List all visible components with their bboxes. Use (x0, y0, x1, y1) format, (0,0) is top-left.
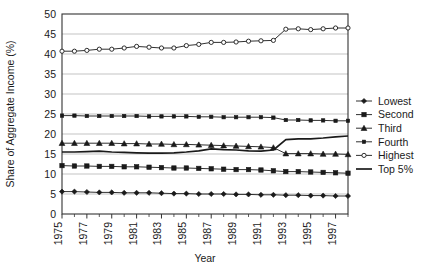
data-point (172, 115, 175, 118)
legend-label: Highest (378, 149, 414, 161)
y-tick-label: 25 (44, 108, 56, 120)
legend-label: Lowest (378, 95, 411, 107)
x-tick-label: 1997 (326, 222, 338, 246)
income-share-chart-figure: 0510152025303540455019751977197919811983… (0, 0, 447, 265)
legend-item-third[interactable]: Third (356, 122, 402, 134)
data-point (259, 39, 263, 43)
data-point (122, 114, 125, 117)
series-line (62, 143, 348, 154)
data-point (72, 189, 77, 194)
x-tick-label: 1983 (151, 222, 163, 246)
data-point (172, 166, 176, 170)
data-point (246, 167, 250, 171)
legend-item-second[interactable]: Second (356, 108, 414, 120)
legend-marker-square-small-icon (362, 140, 365, 143)
data-point (196, 191, 201, 196)
data-point (333, 171, 337, 175)
data-point (234, 116, 237, 119)
y-axis-title: Share of Aggregate Income (%) (4, 40, 16, 187)
data-point (197, 166, 201, 170)
legend-item-fourth[interactable]: Fourth (356, 136, 409, 148)
x-axis-title: Year (194, 252, 216, 264)
data-point (309, 119, 312, 122)
series-line (62, 166, 348, 174)
y-tick-label: 35 (44, 68, 56, 80)
data-point (321, 170, 325, 174)
data-point (221, 191, 226, 196)
x-tick-label: 1977 (77, 222, 89, 246)
series-second (60, 163, 350, 175)
data-point (296, 193, 301, 198)
data-point (272, 116, 275, 119)
x-tick-label: 1981 (127, 222, 139, 246)
data-point (346, 171, 350, 175)
legend-marker-square-filled-icon (362, 112, 366, 116)
data-point (160, 115, 163, 118)
data-point (297, 118, 300, 121)
legend-marker-circle-open-icon (362, 153, 366, 157)
y-tick-label: 30 (44, 88, 56, 100)
data-point (85, 48, 89, 52)
data-point (308, 170, 312, 174)
data-point (334, 119, 337, 122)
data-point (147, 45, 151, 49)
data-point (234, 167, 238, 171)
data-point (135, 114, 138, 117)
data-point (85, 114, 88, 117)
data-point (221, 167, 225, 171)
data-point (259, 168, 263, 172)
data-point (122, 165, 126, 169)
data-point (321, 119, 324, 122)
data-point (147, 115, 150, 118)
data-point (122, 190, 127, 195)
data-point (283, 193, 288, 198)
data-point (110, 47, 114, 51)
data-point (159, 165, 163, 169)
data-point (134, 165, 138, 169)
data-point (234, 40, 238, 44)
data-point (247, 116, 250, 119)
legend-label: Third (378, 122, 402, 134)
data-point (122, 46, 126, 50)
y-tick-label: 10 (44, 168, 56, 180)
data-point (185, 115, 188, 118)
data-point (346, 26, 350, 30)
x-tick-label: 1995 (301, 222, 313, 246)
data-point (321, 27, 325, 31)
data-point (222, 40, 226, 44)
legend-label: Top 5% (378, 163, 413, 175)
data-point (72, 49, 76, 53)
data-point (172, 46, 176, 50)
legend-marker-diamond-icon (361, 98, 366, 103)
data-point (97, 47, 101, 51)
data-point (346, 119, 349, 122)
data-point (258, 192, 263, 197)
series-line (62, 116, 348, 121)
x-tick-label: 1989 (226, 222, 238, 246)
data-point (97, 164, 101, 168)
legend-item-top-5-[interactable]: Top 5% (356, 163, 413, 175)
x-tick-label: 1987 (201, 222, 213, 246)
y-tick-label: 40 (44, 48, 56, 60)
data-point (72, 164, 76, 168)
data-point (271, 169, 275, 173)
legend-item-lowest[interactable]: Lowest (356, 95, 411, 107)
y-tick-label: 50 (44, 8, 56, 20)
legend-label: Fourth (378, 136, 409, 148)
data-point (333, 26, 337, 30)
legend-item-highest[interactable]: Highest (356, 149, 414, 161)
data-point (171, 191, 176, 196)
data-point (135, 44, 139, 48)
x-tick-label: 1985 (176, 222, 188, 246)
data-point (110, 114, 113, 117)
y-tick-label: 15 (44, 148, 56, 160)
data-point (98, 114, 101, 117)
data-point (284, 169, 288, 173)
data-point (60, 114, 63, 117)
data-point (259, 116, 262, 119)
data-point (184, 191, 189, 196)
x-tick-label: 1975 (52, 222, 64, 246)
data-point (209, 167, 213, 171)
data-point (197, 42, 201, 46)
series-fourth (60, 114, 349, 123)
